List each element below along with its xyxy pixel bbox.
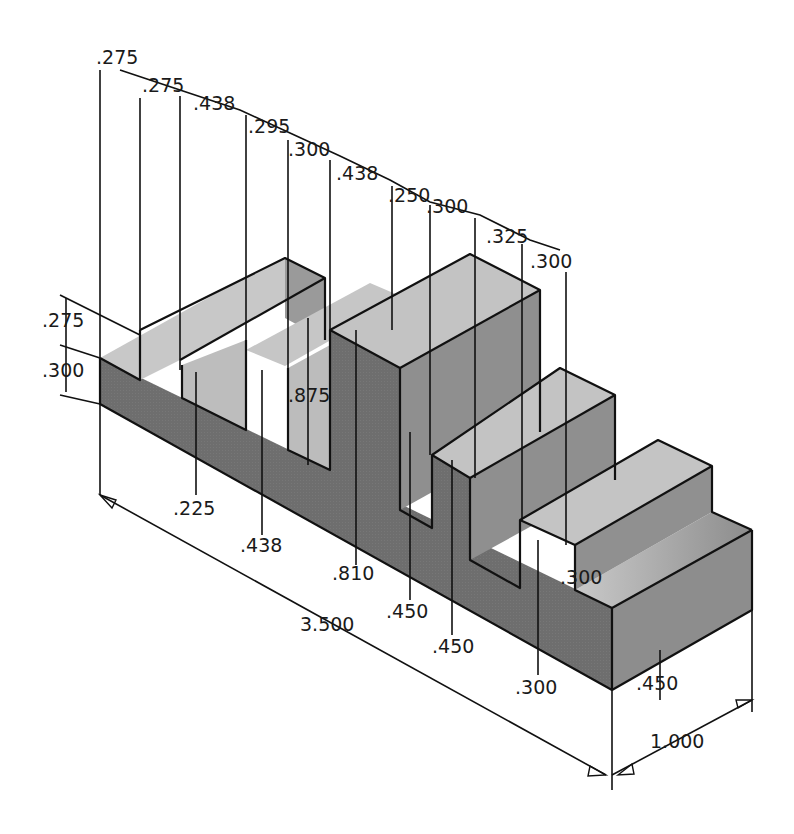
- dim-label: .295: [248, 115, 290, 137]
- dim-label: .325: [486, 225, 528, 247]
- dim-label: .810: [332, 562, 374, 584]
- dim-label: .450: [636, 672, 678, 694]
- left-dimension-labels: .275 .300: [42, 309, 84, 381]
- dim-label: .300: [42, 359, 84, 381]
- dim-label: .438: [240, 534, 282, 556]
- dim-label: .450: [386, 600, 428, 622]
- arrow-icon: [100, 495, 116, 508]
- arrow-icon: [736, 700, 752, 708]
- dim-label: .438: [336, 162, 378, 184]
- overall-depth-label: 1.000: [650, 730, 704, 752]
- dim-label: .250: [388, 184, 430, 206]
- pocket2: [288, 345, 330, 470]
- part-body: [100, 254, 752, 690]
- dim-label: .450: [432, 635, 474, 657]
- dim-label: .300: [560, 566, 602, 588]
- dim-label: .275: [96, 46, 138, 68]
- dim-label: .300: [288, 138, 330, 160]
- dim-label: .300: [426, 195, 468, 217]
- dim-label: .300: [515, 676, 557, 698]
- dim-label: .300: [530, 250, 572, 272]
- isometric-drawing: .275 .275 .438 .295 .300 .438 .250 .300 …: [0, 0, 794, 834]
- arrow-icon: [588, 766, 606, 776]
- top-dimension-labels: .275 .275 .438 .295 .300 .438 .250 .300 …: [96, 46, 572, 272]
- dim-label: .225: [173, 497, 215, 519]
- dim-label: .875: [288, 384, 330, 406]
- overall-length-label: 3.500: [300, 613, 354, 635]
- arrow-icon: [618, 764, 634, 775]
- dim-label: .275: [142, 74, 184, 96]
- dim-label: .438: [193, 92, 235, 114]
- dim-label: .275: [42, 309, 84, 331]
